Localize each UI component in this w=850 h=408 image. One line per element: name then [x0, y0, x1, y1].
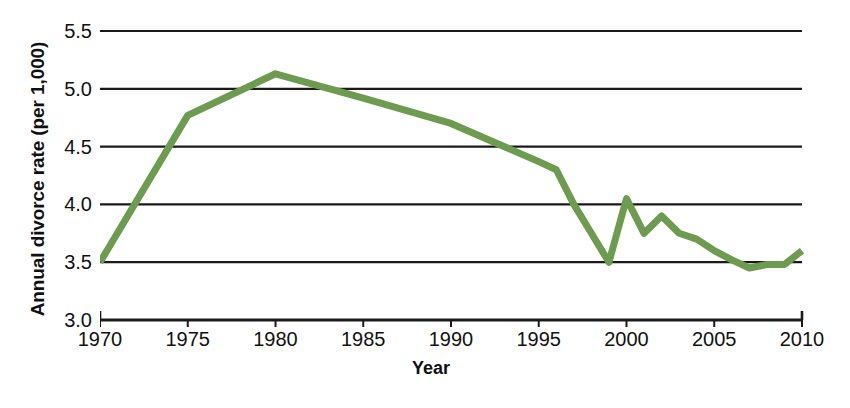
x-tick-label: 1985 — [318, 328, 408, 351]
x-tick-label: 1970 — [55, 328, 145, 351]
x-tick-label: 2005 — [669, 328, 759, 351]
x-tick-label: 1975 — [143, 328, 233, 351]
x-tick-label: 2000 — [582, 328, 672, 351]
x-tick-label: 2010 — [757, 328, 847, 351]
x-axis-tick-labels: 197019751980198519901995200020052010 — [0, 0, 850, 408]
x-axis-title: Year — [0, 358, 850, 379]
x-tick-label: 1980 — [231, 328, 321, 351]
x-tick-label: 1995 — [494, 328, 584, 351]
x-axis-title-text: Year — [412, 358, 450, 379]
x-tick-label: 1990 — [406, 328, 496, 351]
divorce-rate-figure: Annual divorce rate (per 1,000) 3.03.54.… — [0, 0, 850, 408]
